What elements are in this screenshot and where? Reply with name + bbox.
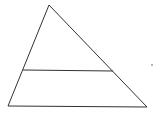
stray-dot xyxy=(151,64,153,66)
triangle-diagram xyxy=(0,0,158,113)
outer-triangle xyxy=(8,5,147,107)
parallel-segment xyxy=(23,70,113,71)
